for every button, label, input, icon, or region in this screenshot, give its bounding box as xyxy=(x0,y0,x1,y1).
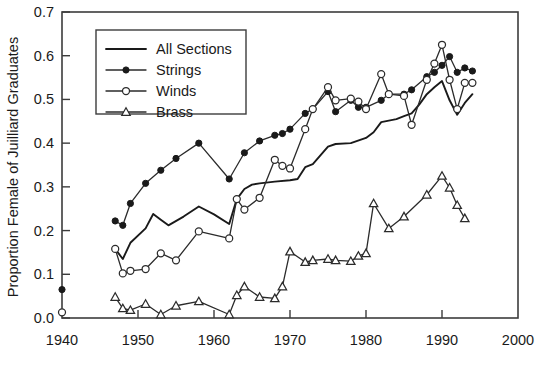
data-point-marker xyxy=(240,282,248,289)
data-point-marker xyxy=(279,162,286,169)
series-brass xyxy=(111,172,469,318)
y-tick-label: 0.6 xyxy=(34,48,54,64)
data-point-marker xyxy=(408,121,415,128)
x-tick-label: 1980 xyxy=(350,332,382,348)
y-tick-label: 0.4 xyxy=(34,135,54,151)
data-point-marker xyxy=(257,138,263,144)
data-point-marker xyxy=(142,266,149,273)
data-point-marker xyxy=(401,92,408,99)
legend-sample-marker xyxy=(123,67,129,73)
data-point-marker xyxy=(324,255,332,262)
data-point-marker xyxy=(423,76,430,83)
data-point-marker xyxy=(233,196,240,203)
data-point-marker xyxy=(438,172,446,179)
data-point-marker xyxy=(469,79,476,86)
data-point-marker xyxy=(454,106,461,113)
data-point-marker xyxy=(333,109,339,115)
y-axis-title-text: Proportion Female of Juilliard Graduates xyxy=(5,37,21,297)
data-point-marker xyxy=(158,167,164,173)
data-point-marker xyxy=(225,310,233,317)
y-tick-label: 0.0 xyxy=(34,310,54,326)
data-point-marker xyxy=(271,156,278,163)
y-tick-label: 0.5 xyxy=(34,91,54,107)
data-point-marker xyxy=(362,249,370,256)
data-point-marker xyxy=(112,245,119,252)
data-point-marker xyxy=(226,235,233,242)
data-point-marker xyxy=(255,293,263,300)
series-line xyxy=(115,176,465,315)
data-point-marker xyxy=(196,140,202,146)
data-point-marker xyxy=(173,155,179,161)
data-point-marker xyxy=(241,206,248,213)
chart-container: Proportion Female of Juilliard Graduates… xyxy=(0,0,540,371)
x-tick-label: 1990 xyxy=(426,332,458,348)
data-point-marker xyxy=(59,286,65,292)
data-point-marker xyxy=(287,126,293,132)
data-point-marker xyxy=(431,69,437,75)
legend-label: Winds xyxy=(156,83,196,99)
data-point-marker xyxy=(439,41,446,48)
data-point-marker xyxy=(272,132,278,138)
data-point-marker xyxy=(287,165,294,172)
data-point-marker xyxy=(447,53,453,59)
x-tick-label: 1950 xyxy=(122,332,154,348)
data-point-marker xyxy=(195,297,203,304)
x-tick-label: 1940 xyxy=(46,332,78,348)
data-point-marker xyxy=(309,106,316,113)
line-chart: Proportion Female of Juilliard Graduates… xyxy=(0,0,540,371)
data-point-marker xyxy=(454,69,460,75)
data-point-marker xyxy=(385,91,392,98)
y-tick-label: 0.7 xyxy=(34,4,54,20)
data-point-marker xyxy=(461,79,468,86)
data-point-marker xyxy=(256,194,263,201)
data-point-marker xyxy=(173,257,180,264)
data-point-marker xyxy=(120,222,126,228)
data-point-marker xyxy=(279,130,285,136)
data-point-marker xyxy=(469,68,475,74)
x-tick-label: 2000 xyxy=(502,332,534,348)
x-tick-label: 1970 xyxy=(274,332,306,348)
y-tick-label: 0.3 xyxy=(34,179,54,195)
data-point-marker xyxy=(286,247,294,254)
y-axis-tick-labels: 0.00.10.20.30.40.50.60.7 xyxy=(34,4,54,326)
data-point-marker xyxy=(462,65,468,71)
data-point-marker xyxy=(278,282,286,289)
data-point-marker xyxy=(157,250,164,257)
y-axis-title: Proportion Female of Juilliard Graduates xyxy=(5,37,21,297)
legend-sample-marker xyxy=(123,88,130,95)
data-point-marker xyxy=(378,71,385,78)
data-point-marker xyxy=(453,201,461,208)
data-point-marker xyxy=(119,270,126,277)
x-axis-tick-labels: 1940195019601970198019902000 xyxy=(46,332,534,348)
data-point-marker xyxy=(157,310,165,317)
data-point-marker xyxy=(302,126,309,133)
data-point-marker xyxy=(112,218,118,224)
data-point-marker xyxy=(378,97,384,103)
data-point-marker xyxy=(446,76,453,83)
data-point-marker xyxy=(431,60,438,67)
data-point-marker xyxy=(409,87,415,93)
data-point-marker xyxy=(143,180,149,186)
data-point-marker xyxy=(241,150,247,156)
data-point-marker xyxy=(325,84,332,91)
y-tick-label: 0.2 xyxy=(34,223,54,239)
data-point-marker xyxy=(347,95,354,102)
data-point-marker xyxy=(127,200,133,206)
data-point-marker xyxy=(195,228,202,235)
data-point-marker xyxy=(461,214,469,221)
data-point-marker xyxy=(226,176,232,182)
data-point-marker xyxy=(59,309,66,316)
legend-label: All Sections xyxy=(156,41,232,57)
data-point-marker xyxy=(369,199,377,206)
data-point-marker xyxy=(141,300,149,307)
data-point-marker xyxy=(355,98,362,105)
data-point-marker xyxy=(119,304,127,311)
data-point-marker xyxy=(363,106,370,113)
legend-label: Brass xyxy=(156,104,193,120)
x-tick-label: 1960 xyxy=(198,332,230,348)
data-point-marker xyxy=(127,267,134,274)
data-point-marker xyxy=(302,110,308,116)
data-point-marker xyxy=(111,293,119,300)
data-point-marker xyxy=(445,184,453,191)
data-point-marker xyxy=(332,97,339,104)
